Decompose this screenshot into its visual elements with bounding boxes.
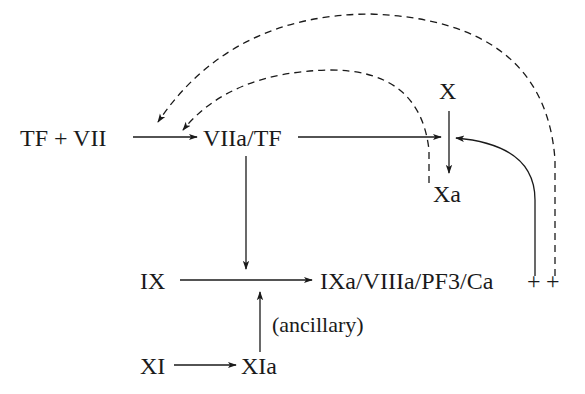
node-xia: XIa (241, 353, 277, 379)
node-ix: IX (140, 268, 165, 294)
node-viia-tf: VIIa/TF (203, 125, 282, 151)
node-x: X (439, 78, 456, 104)
node-ixa-complex: IXa/VIIIa/PF3/Ca (320, 268, 494, 294)
node-xi: XI (140, 353, 165, 379)
edge-label-ancillary: (ancillary) (272, 312, 364, 337)
node-tf-vii: TF + VII (20, 125, 106, 151)
arrow-ixa-complex-to-x-conversion (456, 138, 535, 276)
node-plus-1: + (527, 268, 541, 294)
node-plus-2: + (546, 268, 560, 294)
coagulation-diagram: TF + VII VIIa/TF X Xa IX IXa/VIIIa/PF3/C… (0, 0, 585, 394)
node-xa: Xa (433, 181, 461, 207)
